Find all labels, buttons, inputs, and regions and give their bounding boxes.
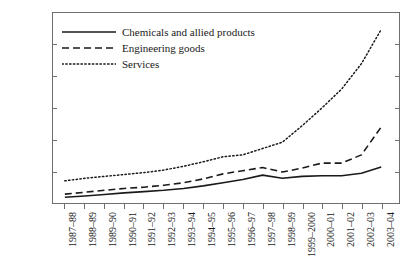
x-tick-label: 1993–94 — [187, 212, 197, 247]
x-tick-mark — [243, 204, 244, 209]
legend-swatch-dotted-icon — [62, 59, 116, 69]
x-tick-label: 1989–90 — [108, 212, 118, 247]
x-tick-mark — [322, 204, 323, 209]
x-tick-mark — [382, 204, 383, 209]
x-tick-mark — [183, 204, 184, 209]
x-tick-label: 1991–92 — [147, 212, 157, 247]
x-tick-label: 1996–97 — [247, 212, 257, 247]
legend-item: Engineering goods — [62, 40, 255, 56]
x-tick-mark — [64, 204, 65, 209]
x-tick-label: 2001–02 — [346, 212, 356, 247]
x-tick-label: 2000–01 — [326, 212, 336, 247]
x-tick-label: 1990–91 — [128, 212, 138, 247]
line-chart: 050001000015000200002500030000 1987–8819… — [0, 0, 413, 267]
legend-item: Chemicals and allied products — [62, 24, 255, 40]
legend-label: Services — [122, 59, 159, 70]
x-tick-label: 1994–95 — [207, 212, 217, 247]
x-tick-mark — [303, 204, 304, 209]
series-line-0 — [65, 167, 381, 197]
legend-item: Services — [62, 56, 255, 72]
legend-swatch-dashed-icon — [62, 43, 116, 53]
x-tick-mark — [342, 204, 343, 209]
x-tick-mark — [223, 204, 224, 209]
legend-label: Engineering goods — [122, 43, 205, 54]
legend-swatch-solid-icon — [62, 27, 116, 37]
x-tick-mark — [84, 204, 85, 209]
x-tick-label: 1987–88 — [68, 212, 78, 247]
x-tick-label: 2002–03 — [366, 212, 376, 247]
legend-label: Chemicals and allied products — [122, 27, 255, 38]
x-tick-label: 1998–99 — [287, 212, 297, 247]
x-tick-label: 1995–96 — [227, 212, 237, 247]
x-tick-label: 1988–89 — [88, 212, 98, 247]
x-tick-mark — [283, 204, 284, 209]
x-tick-mark — [263, 204, 264, 209]
x-tick-label: 1999–2000 — [307, 212, 317, 257]
x-tick-mark — [362, 204, 363, 209]
x-tick-mark — [203, 204, 204, 209]
x-tick-label: 2003–04 — [386, 212, 396, 247]
x-tick-label: 1997–98 — [267, 212, 277, 247]
legend: Chemicals and allied productsEngineering… — [62, 24, 255, 72]
x-tick-mark — [124, 204, 125, 209]
x-tick-mark — [143, 204, 144, 209]
x-tick-label: 1992–93 — [167, 212, 177, 247]
series-line-1 — [65, 127, 381, 194]
x-tick-mark — [104, 204, 105, 209]
x-tick-mark — [163, 204, 164, 209]
